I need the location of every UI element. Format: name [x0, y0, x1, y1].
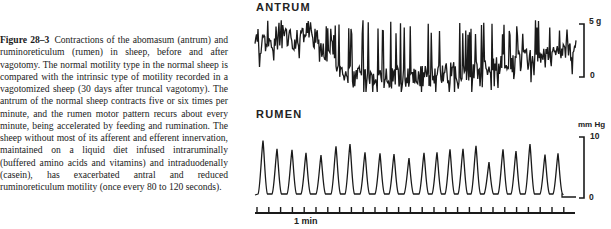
- timeline-axis: [255, 207, 575, 213]
- antrum-scale-bracket: [579, 24, 584, 77]
- trace-canvas: [0, 0, 611, 229]
- rumen-scale-bracket: [579, 137, 584, 198]
- antrum-trace: [255, 20, 576, 92]
- rumen-trace: [255, 141, 576, 197]
